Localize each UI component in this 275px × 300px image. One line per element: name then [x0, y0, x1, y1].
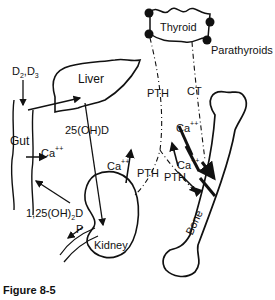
thyroid-label: Thyroid — [160, 22, 197, 33]
calcium-text: Ca — [41, 147, 55, 159]
gut-label: Gut — [10, 135, 29, 147]
bone-calcium-label-upper: Ca++ — [176, 121, 198, 134]
figure-caption: Figure 8-5 — [3, 284, 56, 296]
kidney-label: Kidney — [94, 240, 128, 251]
vitamin-d-sub3: 3 — [35, 72, 39, 79]
gut-wall-inner — [32, 110, 33, 215]
pth-label-upper: PTH — [147, 88, 169, 99]
pth-label-kidney: PTH — [137, 168, 159, 179]
liver-label: Liver — [78, 73, 104, 85]
gut-calcium-label: Ca++ — [41, 146, 63, 159]
parathyroids-label: Parathyroids — [211, 45, 273, 56]
calcitriol-label: 1,25(OH)2D — [26, 208, 83, 221]
calcium-charge: ++ — [190, 120, 198, 127]
ct-label: CT — [187, 86, 202, 97]
bone-calcium-label-lower: Ca++ — [177, 158, 199, 171]
gut-wall-outer — [12, 100, 15, 210]
vitamin-d-label: D2,D3 — [12, 66, 39, 79]
pth-label-bone: PTH — [164, 172, 186, 183]
hydroxy-d-label: 25(OH)D — [65, 125, 109, 136]
vitamin-d-base: D — [12, 65, 20, 77]
calcium-text: Ca — [176, 122, 190, 134]
calcium-text: Ca — [177, 159, 191, 171]
phosphate-label: P — [76, 224, 83, 235]
vitamin-d-sep: ,D — [24, 65, 35, 77]
calcium-charge: ++ — [121, 158, 129, 165]
calcium-charge: ++ — [191, 157, 199, 164]
calcitriol-pre: 1,25(OH) — [26, 207, 71, 219]
kidney-calcium-label: Ca++ — [107, 159, 129, 172]
calcium-charge: ++ — [55, 145, 63, 152]
calcium-text: Ca — [107, 160, 121, 172]
calcitriol-post: D — [75, 207, 83, 219]
